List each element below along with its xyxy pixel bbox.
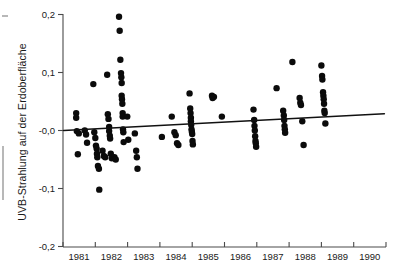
y-tick-label-1: 0,1 [42, 67, 55, 78]
data-point [116, 14, 122, 20]
x-tick-label-1981: 1981 [69, 251, 90, 262]
data-point [92, 135, 98, 141]
y-tick-label-0: 0,2 [42, 9, 55, 20]
x-tick-label-1985: 1985 [198, 251, 219, 262]
data-point [83, 131, 89, 137]
data-point [133, 148, 139, 154]
data-point [250, 106, 256, 112]
data-point [94, 154, 100, 160]
x-tick-label-1987: 1987 [262, 251, 283, 262]
data-point [300, 142, 306, 148]
y-tick-label-4: -0,2 [39, 241, 55, 252]
data-point [186, 90, 192, 96]
plot-canvas: UVB-Strahlung auf der Erdoberfläche 0,2 … [0, 0, 399, 276]
data-point [211, 94, 217, 100]
data-point [298, 102, 304, 108]
data-point [319, 76, 325, 82]
scatter-points-layer [73, 14, 329, 193]
data-point [189, 131, 195, 137]
data-point [134, 154, 140, 160]
data-point [134, 166, 140, 172]
data-point [118, 80, 124, 86]
uvb-scatter-figure: UVB-Strahlung auf der Erdoberfläche 0,2 … [0, 0, 399, 276]
data-point [173, 132, 179, 138]
x-tick-label-1986: 1986 [230, 251, 251, 262]
y-tick-label-3: -0,1 [39, 183, 55, 194]
data-point [116, 28, 122, 34]
data-point [75, 151, 81, 157]
data-point [90, 81, 96, 87]
y-axis-label: UVB-Strahlung auf der Erdoberfläche [16, 43, 28, 220]
x-tick-label-1990: 1990 [359, 251, 380, 262]
y-tick-label-2: -0,0 [39, 125, 55, 136]
data-point [96, 186, 102, 192]
x-tick-label-1982: 1982 [101, 251, 122, 262]
data-point [253, 144, 259, 150]
data-point [252, 127, 258, 133]
data-point [91, 129, 97, 135]
data-point [299, 118, 305, 124]
data-point [273, 85, 279, 91]
y-axis-label-text: UVB-Strahlung auf der Erdoberfläche [16, 43, 28, 220]
data-point [321, 101, 327, 107]
data-point [105, 116, 111, 122]
data-point [107, 135, 113, 141]
page-edge-marks [2, 16, 8, 200]
y-tick-group: 0,2 0,1 -0,0 -0,1 -0,2 [39, 9, 63, 252]
data-point [96, 166, 102, 172]
data-point [289, 59, 295, 65]
data-point [282, 130, 288, 136]
x-tick-label-1983: 1983 [133, 251, 154, 262]
data-point [125, 137, 131, 143]
data-point [117, 57, 123, 63]
data-point [219, 113, 225, 119]
x-tick-label-1989: 1989 [327, 251, 348, 262]
x-tick-group: 1981 1982 1983 1984 1985 1986 1987 1988 … [63, 242, 386, 262]
data-point [175, 142, 181, 148]
data-point [104, 72, 110, 78]
data-point [159, 134, 165, 140]
data-point [84, 139, 90, 145]
data-point [318, 62, 324, 68]
data-point [118, 74, 124, 80]
data-point [102, 154, 108, 160]
data-point [322, 120, 328, 126]
data-point [281, 117, 287, 123]
data-point [76, 130, 82, 136]
data-point [113, 156, 119, 162]
data-point [132, 130, 138, 136]
x-tick-label-1984: 1984 [165, 251, 186, 262]
data-point [120, 129, 126, 135]
data-point [73, 115, 79, 121]
data-point [119, 101, 125, 107]
x-tick-label-1988: 1988 [295, 251, 316, 262]
data-point [169, 113, 175, 119]
data-point [124, 113, 130, 119]
data-point [322, 110, 328, 116]
data-point [190, 141, 196, 147]
